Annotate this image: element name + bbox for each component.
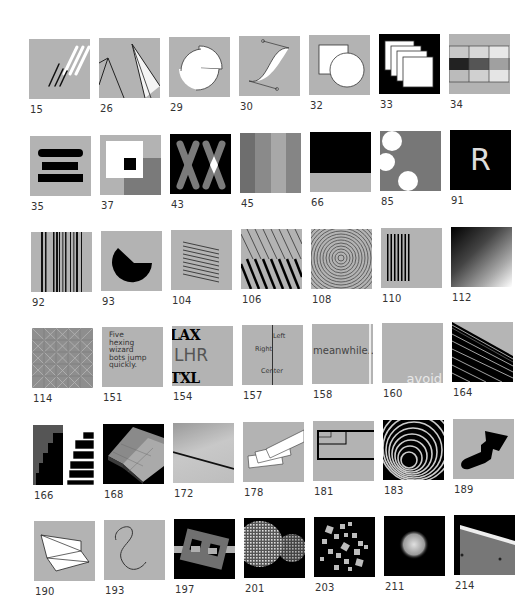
thumbnail-label: 201 xyxy=(245,583,306,594)
thumbnail-112[interactable]: 112 xyxy=(451,227,513,303)
rotated-frame-image xyxy=(174,519,235,579)
thumbnail-190[interactable]: 190 xyxy=(34,521,96,597)
double-x-image xyxy=(170,134,231,194)
thumbnail-label: 32 xyxy=(310,100,371,111)
thumbnail-110[interactable]: 110 xyxy=(381,228,443,304)
thumbnail-32[interactable]: 32 xyxy=(309,35,371,111)
3d-plates-image xyxy=(103,424,164,484)
meanwhile-text: meanwhile.. xyxy=(313,345,373,356)
s-curve-image xyxy=(104,520,165,580)
thumbnail-203[interactable]: 203 xyxy=(314,517,376,593)
thumbnail-label: 178 xyxy=(244,487,305,498)
thumbnail-178[interactable]: 178 xyxy=(243,422,305,498)
thumbnail-106[interactable]: 106 xyxy=(241,229,303,305)
thumbnail-label: 106 xyxy=(242,294,303,305)
thumbnail-93[interactable]: 93 xyxy=(101,231,163,307)
thumbnail-label: 34 xyxy=(450,99,511,110)
thumbnail-label: 211 xyxy=(385,581,446,592)
thumbnail-label: 160 xyxy=(383,388,444,399)
thumbnail-label: 164 xyxy=(453,387,514,398)
thumbnail-label: 30 xyxy=(240,101,301,112)
thumbnail-166[interactable]: 166 xyxy=(33,425,95,501)
thumbnail-151[interactable]: Five hexing wizard bots jump quickly. 15… xyxy=(102,327,164,403)
thumbnail-211[interactable]: 211 xyxy=(384,516,446,592)
thumbnail-label: 190 xyxy=(35,586,96,597)
thumbnail-label: 189 xyxy=(454,484,515,495)
angled-lines-image xyxy=(99,38,160,98)
avoid-text: avoid xyxy=(407,371,442,383)
thumbnail-35[interactable]: 35 xyxy=(30,136,92,212)
thumbnail-43[interactable]: 43 xyxy=(170,134,232,210)
thumbnail-193[interactable]: 193 xyxy=(104,520,166,596)
text-pangram-image: Five hexing wizard bots jump quickly. xyxy=(102,327,163,387)
thumbnail-15[interactable]: 15 xyxy=(29,39,91,115)
pangram-text: Five hexing wizard bots jump quickly. xyxy=(109,331,147,369)
thumbnail-37[interactable]: 37 xyxy=(100,135,162,211)
thumbnail-label: 158 xyxy=(313,389,374,400)
thumbnail-label: 29 xyxy=(170,102,231,113)
thumbnail-154[interactable]: LAX LHR TXL 154 xyxy=(172,326,234,402)
thumbnail-label: 183 xyxy=(384,485,445,496)
building-stripes-image xyxy=(452,322,513,382)
thumbnail-114[interactable]: 114 xyxy=(32,328,94,404)
thumbnail-45[interactable]: 45 xyxy=(240,133,302,209)
thumbnail-104[interactable]: 104 xyxy=(171,230,233,306)
letter-r-image: R xyxy=(450,130,511,190)
gradient-squares-image xyxy=(451,227,512,287)
thumbnail-label: 45 xyxy=(241,198,302,209)
black-over-gray-image xyxy=(310,132,371,192)
thumbnail-201[interactable]: 201 xyxy=(244,518,306,594)
thumbnail-92[interactable]: 92 xyxy=(31,232,93,308)
thumbnail-29[interactable]: 29 xyxy=(169,37,231,113)
thumbnail-26[interactable]: 26 xyxy=(99,38,161,114)
white-circles-image xyxy=(380,131,441,191)
thumbnail-197[interactable]: 197 xyxy=(174,519,236,595)
diagonal-lines-image xyxy=(29,39,90,99)
thumbnail-108[interactable]: 108 xyxy=(311,229,373,305)
diagonal-hatching-image xyxy=(241,229,302,289)
thumbnail-label: 33 xyxy=(380,99,441,110)
thumbnail-91[interactable]: R 91 xyxy=(450,130,512,206)
thumbnail-label: 85 xyxy=(381,196,442,207)
thumbnail-label: 154 xyxy=(173,391,234,402)
vertical-bars-image xyxy=(381,228,442,288)
thumbnail-label: 92 xyxy=(32,297,93,308)
pacman-shape-image xyxy=(101,231,162,291)
text-left: Left xyxy=(273,332,285,340)
thumbnail-160[interactable]: avoid 160 xyxy=(382,323,444,399)
tiled-pattern-image xyxy=(32,328,93,388)
thumbnail-label: 108 xyxy=(312,294,373,305)
barcode-lines-image xyxy=(31,232,92,292)
thumbnail-66[interactable]: 66 xyxy=(310,132,372,208)
staircase-image xyxy=(33,425,94,485)
gray-grid-image xyxy=(449,34,510,94)
gray-stripes-image xyxy=(240,133,301,193)
thumbnail-label: 112 xyxy=(452,292,513,303)
folded-paper-image xyxy=(34,521,95,581)
thumbnail-label: 172 xyxy=(174,488,235,499)
thumbnail-label: 193 xyxy=(105,585,166,596)
thumbnail-label: 197 xyxy=(175,584,236,595)
thumbnail-189[interactable]: 189 xyxy=(453,419,515,495)
thumbnail-214[interactable]: 214 xyxy=(454,515,516,591)
thumbnail-158[interactable]: meanwhile.. 158 xyxy=(312,324,374,400)
scattered-cubes-image xyxy=(314,517,375,577)
thumbnail-label: 26 xyxy=(100,103,161,114)
thumbnail-183[interactable]: 183 xyxy=(383,420,445,496)
thumbnail-30[interactable]: 30 xyxy=(239,36,301,112)
concentric-circles-image xyxy=(311,229,372,289)
thumbnail-label: 214 xyxy=(455,580,516,591)
thumbnail-168[interactable]: 168 xyxy=(103,424,165,500)
thumbnail-label: 181 xyxy=(314,486,375,497)
text-right: Right xyxy=(255,345,272,353)
code-lhr: LHR xyxy=(174,345,208,365)
thumbnail-85[interactable]: 85 xyxy=(380,131,442,207)
thumbnail-33[interactable]: 33 xyxy=(379,34,441,110)
thumbnail-157[interactable]: Left Right Center 157 xyxy=(242,325,304,401)
thumbnail-164[interactable]: 164 xyxy=(452,322,514,398)
bezier-curve-image xyxy=(239,36,300,96)
thumbnail-34[interactable]: 34 xyxy=(449,34,511,110)
thumbnail-172[interactable]: 172 xyxy=(173,423,235,499)
thumbnail-label: 151 xyxy=(103,392,164,403)
thumbnail-181[interactable]: 181 xyxy=(313,421,375,497)
